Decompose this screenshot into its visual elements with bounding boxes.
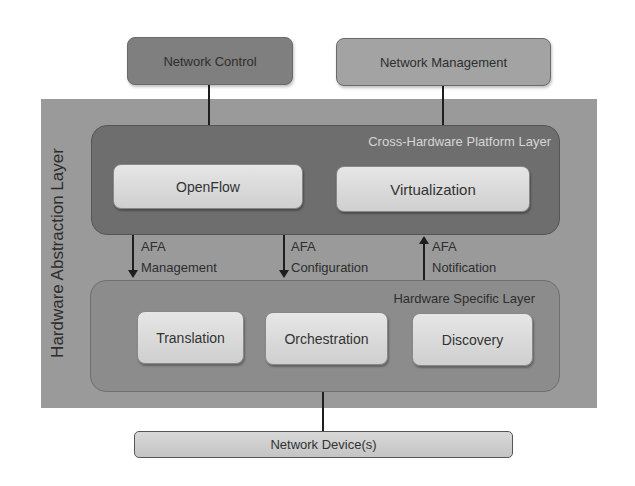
discovery-box: Discovery bbox=[412, 313, 533, 366]
orchestration-label: Orchestration bbox=[284, 331, 368, 347]
hardware-specific-layer-label: Hardware Specific Layer bbox=[393, 291, 535, 306]
translation-label: Translation bbox=[156, 330, 225, 346]
orchestration-box: Orchestration bbox=[265, 312, 388, 365]
network-device-label: Network Device(s) bbox=[270, 437, 376, 452]
discovery-label: Discovery bbox=[442, 332, 503, 348]
translation-box: Translation bbox=[137, 311, 244, 364]
afa-notification-label: AFA Notification bbox=[432, 236, 496, 278]
afa-management-label: AFA Management bbox=[141, 236, 217, 278]
network-device-node: Network Device(s) bbox=[134, 431, 513, 458]
afa-configuration-label: AFA Configuration bbox=[291, 236, 368, 278]
connector-network-device bbox=[322, 392, 324, 432]
